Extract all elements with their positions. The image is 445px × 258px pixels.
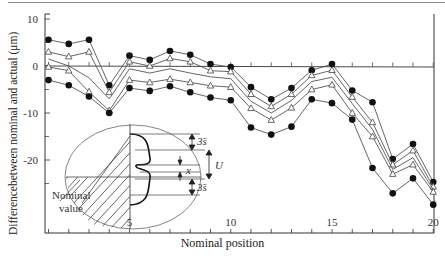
- nominal-value-label-line1: Nominal: [52, 189, 91, 201]
- nominal-value-label-line2: value: [59, 202, 83, 214]
- dot-marker: [410, 175, 417, 182]
- dot-marker: [106, 110, 113, 117]
- y-tick-label: -20: [23, 154, 38, 166]
- dot-marker: [268, 96, 275, 103]
- inset-label-3s-bottom: 3s̄: [196, 181, 207, 193]
- dot-marker: [227, 97, 234, 104]
- dot-marker: [369, 99, 376, 106]
- dot-marker: [349, 116, 356, 123]
- x-axis-label: Nominal position: [0, 236, 445, 251]
- triangle-marker: [268, 103, 274, 109]
- dot-marker: [329, 100, 336, 107]
- dot-marker: [86, 93, 93, 100]
- dot-marker: [126, 85, 133, 92]
- dot-marker: [65, 82, 72, 89]
- triangle-marker: [167, 76, 173, 82]
- dot-marker: [45, 77, 52, 84]
- triangle-marker: [268, 117, 274, 123]
- x-tick-label: 15: [327, 216, 339, 228]
- inset-label-3s-top: 3s̄: [196, 135, 207, 147]
- y-tick-label: 0: [33, 60, 39, 72]
- dot-marker: [45, 36, 52, 43]
- dot-marker: [369, 165, 376, 172]
- dot-marker: [187, 89, 194, 96]
- dot-marker: [389, 190, 396, 197]
- dot-marker: [248, 124, 255, 131]
- triangle-marker: [410, 161, 416, 167]
- dot-marker: [146, 88, 153, 95]
- inset-label-U: U: [215, 159, 224, 171]
- dot-marker: [430, 201, 437, 208]
- dot-marker: [288, 123, 295, 130]
- dot-marker: [167, 83, 174, 90]
- x-tick-label: 10: [225, 216, 237, 228]
- dot-marker: [308, 96, 315, 103]
- dot-marker: [65, 41, 72, 48]
- y-tick-label: 10: [27, 13, 39, 25]
- dot-marker: [248, 84, 255, 91]
- triangle-marker: [167, 55, 173, 61]
- dot-marker: [187, 51, 194, 58]
- series-line-1: [49, 52, 434, 187]
- inset-label-x: x: [185, 164, 191, 176]
- triangle-marker: [126, 77, 132, 83]
- dot-marker: [268, 131, 275, 138]
- chart-canvas: 5101520100-10-20: [0, 0, 445, 258]
- inset-diagram: [0, 120, 260, 240]
- y-tick-label: -10: [23, 107, 38, 119]
- x-tick-label: 20: [428, 216, 440, 228]
- dot-marker: [86, 36, 93, 43]
- triangle-marker: [329, 81, 335, 87]
- y-axis-label: Differencebetween nominal and actual (μm…: [7, 35, 21, 235]
- triangle-marker: [45, 48, 51, 54]
- data-series: [45, 36, 436, 208]
- dot-marker: [207, 94, 214, 101]
- triangle-marker: [86, 48, 92, 54]
- dot-marker: [167, 48, 174, 55]
